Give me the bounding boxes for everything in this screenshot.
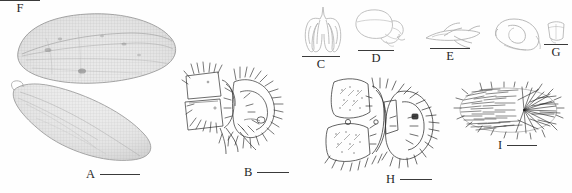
panel-f-caption: F xyxy=(0,0,40,15)
panel-g-caption: G xyxy=(544,44,568,59)
hook-sclerite-illustration xyxy=(490,16,544,54)
panel-h-caption: H xyxy=(386,173,432,186)
panel-b-caption: B xyxy=(244,166,289,179)
panel-e-artwork xyxy=(424,22,482,50)
panel-b-artwork xyxy=(182,62,288,164)
panel-a-label: A xyxy=(86,168,95,181)
panel-a-caption: A xyxy=(86,168,140,181)
panel-h-label: H xyxy=(386,173,395,186)
panel-e-caption: E xyxy=(430,48,470,63)
panel-i-scalebar xyxy=(507,145,537,146)
panel-e-label: E xyxy=(446,50,454,63)
panel-d-label: D xyxy=(371,52,380,65)
panel-c-caption: C xyxy=(302,56,340,71)
genitalia-stipes-illustration xyxy=(324,74,444,172)
paramere-illustration xyxy=(424,22,482,50)
figure-plate: A xyxy=(0,0,572,193)
setose-oval-illustration xyxy=(452,82,564,140)
panel-i-artwork xyxy=(452,82,564,140)
panel-i-caption: I xyxy=(498,139,537,152)
panel-f-artwork xyxy=(490,16,544,54)
panel-c-label: C xyxy=(317,58,325,71)
panel-a-scalebar xyxy=(100,174,140,175)
panel-g-artwork xyxy=(544,20,568,46)
wing-illustration xyxy=(6,8,186,160)
panel-c-artwork xyxy=(298,6,348,54)
panel-f-label: F xyxy=(17,2,24,15)
panel-b-scalebar xyxy=(257,172,289,173)
genital-capsule-illustration xyxy=(352,8,410,48)
genitalia-lateral-illustration xyxy=(182,62,288,164)
plate-sclerite-illustration xyxy=(544,20,568,46)
panel-d-caption: D xyxy=(358,50,394,65)
panel-d-artwork xyxy=(352,8,410,48)
panel-b-label: B xyxy=(244,166,252,179)
panel-a-artwork xyxy=(6,8,186,160)
aedeagal-complex-illustration xyxy=(298,6,348,54)
panel-h-artwork xyxy=(324,74,444,172)
panel-g-label: G xyxy=(551,46,560,59)
panel-h-scalebar xyxy=(400,179,432,180)
panel-i-label: I xyxy=(498,139,502,152)
